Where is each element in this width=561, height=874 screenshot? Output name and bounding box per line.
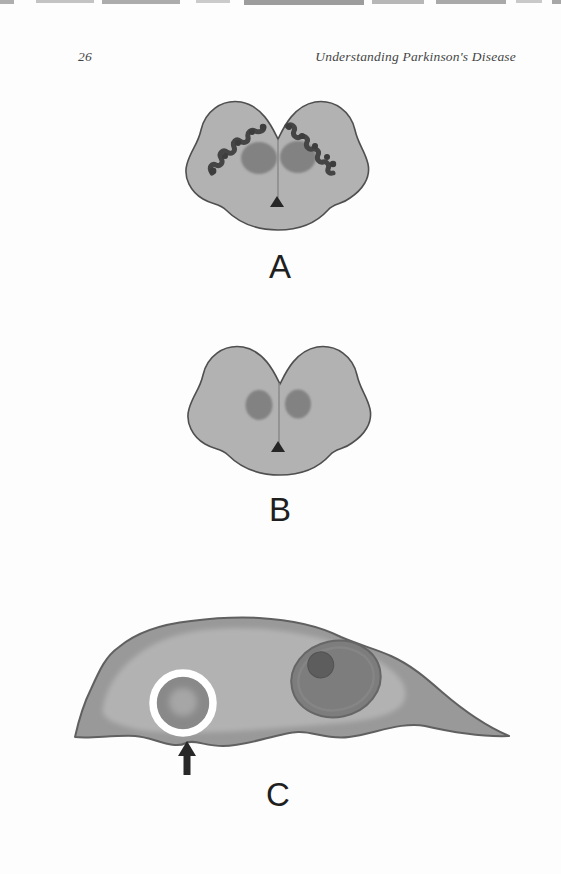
red-nucleus-left xyxy=(246,390,273,420)
book-page-scan: 26 Understanding Parkinson's Disease xyxy=(0,0,561,874)
lewy-body xyxy=(153,673,213,733)
red-nucleus-right xyxy=(280,141,316,173)
figure-label-b: B xyxy=(258,493,302,526)
scan-artifact-top-edge xyxy=(0,0,561,8)
figure-midbrain-normal xyxy=(183,98,373,238)
figure-label-c: C xyxy=(256,778,300,811)
figure-midbrain-parkinsons xyxy=(185,343,375,483)
red-nucleus-left xyxy=(241,142,277,174)
page-number: 26 xyxy=(78,49,92,65)
figure-neuron-lewy-body xyxy=(73,615,513,785)
red-nucleus-right xyxy=(285,390,311,419)
arrow-icon xyxy=(178,741,196,775)
running-header-title: Understanding Parkinson's Disease xyxy=(315,49,516,65)
figure-label-a: A xyxy=(258,250,302,283)
lewy-body-core xyxy=(169,688,197,716)
